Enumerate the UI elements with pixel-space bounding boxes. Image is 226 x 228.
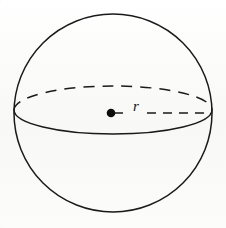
sphere-radius-figure: r: [0, 0, 226, 228]
sphere-diagram-svg: [0, 0, 226, 228]
equator-back-arc-dashed: [14, 86, 212, 110]
radius-label: r: [133, 99, 139, 114]
sphere-center-dot: [107, 109, 116, 118]
